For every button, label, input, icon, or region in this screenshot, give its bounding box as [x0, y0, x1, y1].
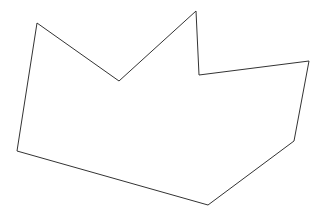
canvas [0, 0, 324, 217]
polygon-shape [17, 11, 309, 205]
